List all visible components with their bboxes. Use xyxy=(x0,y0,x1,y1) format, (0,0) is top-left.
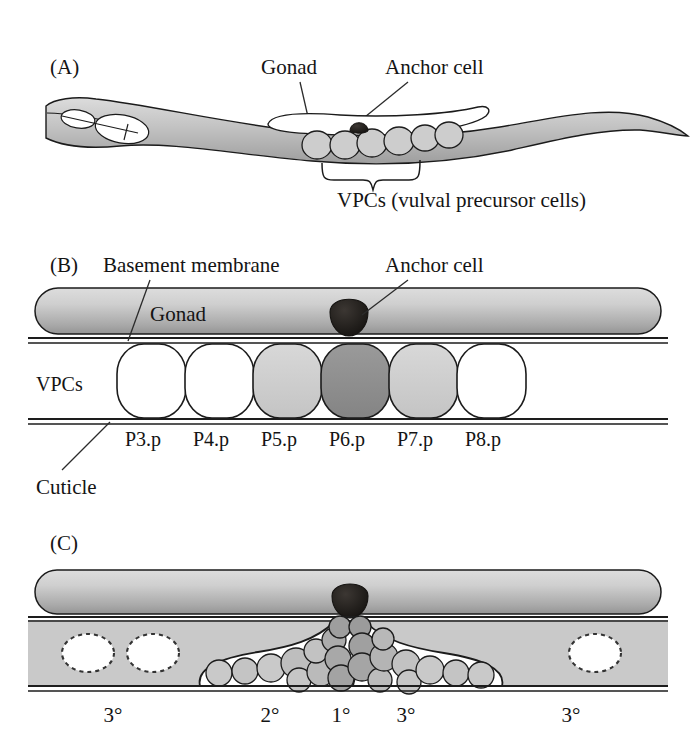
panel-a-vpc xyxy=(302,131,332,159)
panel-b-basement-membrane-label: Basement membrane xyxy=(103,253,280,277)
vpc-label-p3p: P3.p xyxy=(125,428,161,451)
descendant-cell xyxy=(468,662,494,688)
descendant-cell xyxy=(232,658,258,684)
vpc-cell-p5p xyxy=(253,344,322,418)
descendant-cell xyxy=(372,628,394,650)
fused-cell-outline xyxy=(127,634,179,672)
fused-cell-outline xyxy=(62,634,114,672)
panel-b-vpcs-label: VPCs xyxy=(36,373,83,395)
figure-root: (A) Gonad Anchor cell VPCs (vulval precu… xyxy=(0,0,696,742)
descendant-cell xyxy=(206,660,232,686)
panel-b-gonad-label: Gonad xyxy=(150,302,206,326)
vpc-cell-p6p xyxy=(321,344,390,418)
panel-a-vpcs-label: VPCs (vulval precursor cells) xyxy=(337,188,586,212)
vpc-cell-p3p xyxy=(117,344,186,418)
panel-a-anchor-cell-label: Anchor cell xyxy=(385,55,484,79)
panel-a-anchor-cell xyxy=(350,123,368,134)
fate-label-tertiary-right: 3° xyxy=(397,703,416,727)
vpc-label-p5p: P5.p xyxy=(261,428,297,451)
vpc-cell-p7p xyxy=(389,344,458,418)
panel-a-label: (A) xyxy=(50,55,79,79)
fused-cell-outline xyxy=(569,634,621,672)
vpc-cell-p4p xyxy=(185,344,254,418)
panel-b-vpc-row xyxy=(117,344,526,418)
panel-b: (B) Basement membrane Anchor cell Gonad … xyxy=(28,253,668,499)
panel-a-vpc xyxy=(435,122,463,148)
fate-label-primary: 1° xyxy=(332,703,351,727)
fate-label-tertiary-right-outer: 3° xyxy=(562,703,581,727)
descendant-cell xyxy=(416,656,444,684)
fate-label-secondary: 2° xyxy=(261,703,280,727)
panel-b-label: (B) xyxy=(50,253,78,277)
descendant-cell xyxy=(329,616,351,638)
panel-b-cuticle-leader xyxy=(62,422,110,470)
panel-a-vpc xyxy=(384,127,414,155)
vpc-label-p4p: P4.p xyxy=(193,428,229,451)
vpc-label-p7p: P7.p xyxy=(397,428,433,451)
panel-b-cuticle-label: Cuticle xyxy=(36,475,97,499)
panel-a-vpc xyxy=(330,131,360,159)
panel-c-label: (C) xyxy=(50,531,78,555)
fate-label-tertiary-left-outer: 3° xyxy=(104,703,123,727)
vpc-cell-p8p xyxy=(457,344,526,418)
descendant-cell xyxy=(257,654,285,682)
vpc-label-p8p: P8.p xyxy=(465,428,501,451)
descendant-cell xyxy=(443,660,469,686)
panel-b-anchor-cell-label: Anchor cell xyxy=(385,253,484,277)
panel-c: (C) xyxy=(28,531,668,727)
panel-a-gonad-label: Gonad xyxy=(261,55,317,79)
vpc-label-p6p: P6.p xyxy=(329,428,365,451)
descendant-cell xyxy=(368,668,392,692)
panel-a: (A) Gonad Anchor cell VPCs (vulval precu… xyxy=(46,55,688,212)
